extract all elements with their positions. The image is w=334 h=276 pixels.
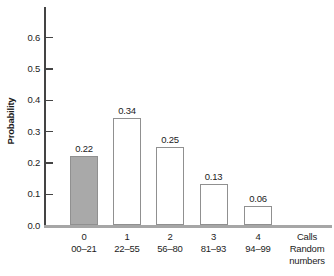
x-tick-range-2: 56–80 — [148, 243, 192, 254]
bar-value-label: 0.13 — [194, 171, 234, 182]
probability-bar-chart: Probability 0.00.10.20.30.40.50.6 0.22 0… — [0, 0, 334, 276]
x-tick-range-4: 94–99 — [236, 243, 280, 254]
x-tick-range-1: 22–55 — [105, 243, 149, 254]
y-axis-line — [44, 7, 46, 228]
bar-0-calls — [70, 156, 98, 225]
y-tick-label: 0.3 — [12, 126, 40, 137]
x-tick-calls-1: 1 — [105, 231, 149, 242]
x-tick-range-0: 00–21 — [62, 243, 106, 254]
y-tick-mark — [46, 37, 53, 38]
bar-value-label: 0.25 — [150, 134, 190, 145]
x-tick-calls-2: 2 — [148, 231, 192, 242]
y-tick-label: 0.6 — [12, 32, 40, 43]
x-tick-calls-0: 0 — [62, 231, 106, 242]
x-axis-unit-calls: Calls — [283, 231, 331, 242]
x-tick-calls-3: 3 — [192, 231, 236, 242]
x-axis-line — [44, 225, 332, 228]
bar-4-calls — [244, 206, 272, 225]
y-tick-label: 0.0 — [12, 220, 40, 231]
x-tick-range-3: 81–93 — [192, 243, 236, 254]
bar-value-label: 0.34 — [107, 105, 147, 116]
y-tick-mark — [46, 100, 53, 101]
y-tick-mark — [46, 194, 53, 195]
bar-value-label: 0.06 — [238, 193, 278, 204]
x-axis-unit-random-numbers: Random numbers — [283, 243, 331, 267]
y-tick-label: 0.5 — [12, 63, 40, 74]
y-tick-label: 0.4 — [12, 94, 40, 105]
y-tick-mark — [46, 68, 53, 69]
y-tick-mark — [46, 162, 53, 163]
y-tick-mark — [46, 131, 53, 132]
bar-2-calls — [156, 147, 184, 225]
y-tick-label: 0.2 — [12, 157, 40, 168]
bar-3-calls — [200, 184, 228, 225]
bar-1-call — [113, 118, 141, 225]
x-tick-calls-4: 4 — [236, 231, 280, 242]
bar-value-label: 0.22 — [64, 143, 104, 154]
y-tick-label: 0.1 — [12, 188, 40, 199]
